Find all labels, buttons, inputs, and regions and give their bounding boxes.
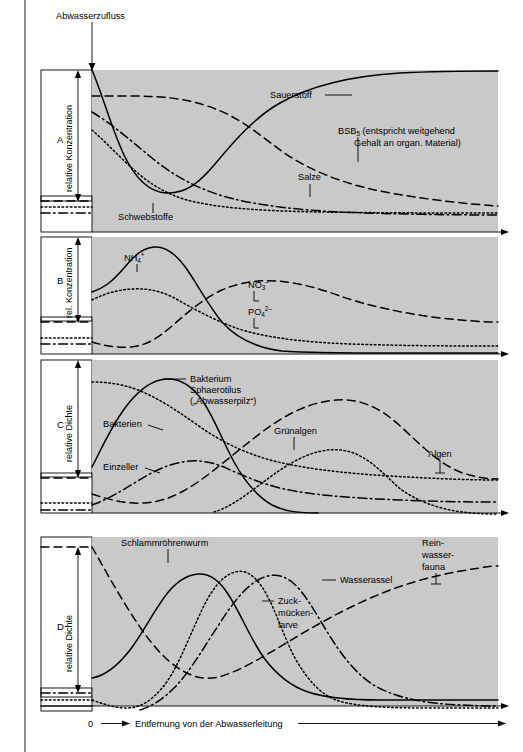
panel-C: relative Dichte C Bakterium Sphaerotilus… (41, 360, 509, 516)
panel-B-x-arrow (501, 351, 509, 357)
label-schlammroehrenwurm: Schlammröhrenwurm (121, 538, 209, 548)
label-gruenalgen: Grünalgen (274, 426, 317, 436)
label-po4-main: PO (248, 307, 261, 317)
panel-D: relative Dichte D Schlammröhrenwurm Zuck… (41, 537, 509, 711)
panel-C-x-arrow (501, 510, 509, 516)
panel-C-margin-lower-box (41, 473, 92, 513)
label-zuck-l1: Zuck- (278, 596, 301, 606)
label-nh4-sup: + (141, 251, 145, 258)
label-nh4-main: NH (124, 253, 137, 263)
x-axis-origin-label: 0 (88, 719, 93, 729)
panel-D-letter: D (57, 621, 64, 632)
label-rein-l1: Rein- (422, 538, 444, 548)
inflow-label: Abwasserzufluss (56, 11, 125, 21)
label-bakterien: Bakterien (103, 419, 142, 429)
label-po4-sub: 4 (261, 311, 265, 318)
panel-B-plot-area (92, 237, 498, 354)
x-axis-caption: 0 Entfernung von der Abwasserleitung (88, 719, 506, 729)
panel-B-y-axis-label: rel. Konzentration (64, 247, 74, 318)
label-bsb5-line2: Gehalt an organ. Material) (354, 138, 461, 148)
label-einzeller: Einzeller (103, 462, 138, 472)
label-po4-sup: 2– (265, 305, 273, 312)
svg-text:BSB5 (entspricht weitgehend: BSB5 (entspricht weitgehend (338, 126, 455, 137)
panel-C-letter: C (57, 419, 64, 430)
label-sauerstoff: Sauerstoff (270, 90, 312, 100)
panel-B: rel. Konzentration B NH4+ NO3– (41, 237, 509, 357)
label-rein-l3: fauna (422, 562, 446, 572)
panel-C-y-axis-label: relative Dichte (64, 405, 74, 462)
panel-B-letter: B (57, 275, 63, 286)
label-bsb5-rest: (entspricht weitgehend (360, 126, 455, 136)
label-sphaerotilus-l2: Sphaerotilus (190, 385, 241, 395)
panel-A-x-arrow (501, 229, 509, 235)
panel-A: Abwasserzufluss relative Konzentration A… (41, 11, 509, 235)
label-zuck-l3: larve (278, 620, 298, 630)
panel-A-letter: A (57, 134, 64, 145)
panel-D-y-axis-label: relative Dichte (64, 615, 74, 672)
label-zuck-l2: mücken- (278, 608, 313, 618)
panel-A-y-axis-label: relative Konzentration (64, 105, 74, 192)
label-nh4-sub: 4 (137, 257, 141, 264)
label-no3-main: NO (248, 280, 262, 290)
figure-container: Abwasserzufluss relative Konzentration A… (0, 0, 523, 752)
label-bsb5-main: BSB (338, 126, 356, 136)
label-no3-sup: – (265, 278, 269, 285)
x-axis-label: Entfernung von der Abwasserleitung (135, 719, 283, 729)
label-wasserassel: Wasserassel (340, 575, 392, 585)
selfpurification-diagram: Abwasserzufluss relative Konzentration A… (0, 0, 523, 752)
label-no3-sub: 3 (262, 284, 266, 291)
label-salze: Salze (298, 172, 321, 182)
label-sphaerotilus-l3: („Abwasserpilz“) (190, 396, 256, 406)
x-axis-caption-arrow (498, 720, 506, 726)
label-algen: Algen (428, 449, 452, 459)
label-sphaerotilus-l1: Bakterium (190, 374, 232, 384)
panel-D-x-arrow (501, 703, 509, 709)
label-schwebstoffe: Schwebstoffe (118, 212, 173, 222)
label-rein-l2: wasser- (421, 550, 454, 560)
x-axis-origin-arrow (122, 720, 130, 726)
